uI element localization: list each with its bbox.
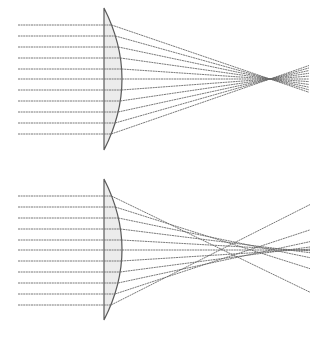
refracted-ray [115,36,309,90]
panel-spherical-aberration [18,179,310,320]
refracted-ray [111,205,310,305]
refracted-ray [122,76,309,90]
refracted-ray [122,240,310,251]
refracted-ray [115,230,310,294]
refracted-ray [111,65,309,134]
lens-ray-diagram [0,0,327,348]
refracted-ray [118,218,310,258]
refracted-ray [120,73,309,101]
refracted-ray [118,71,309,112]
panel-ideal-focus [18,8,309,150]
refracted-ray [118,47,309,87]
refracted-ray [118,242,310,283]
refracted-ray [115,68,309,123]
refracted-ray [112,25,309,92]
